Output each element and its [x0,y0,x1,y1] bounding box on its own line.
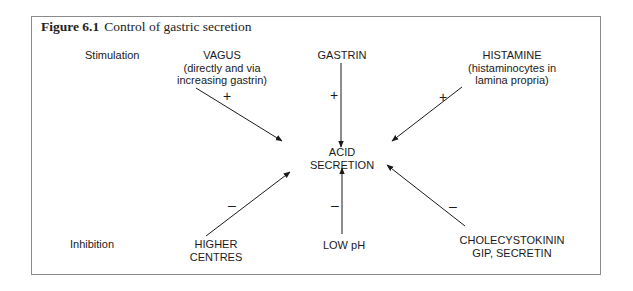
vagus-arrow [196,88,282,141]
higher-centres-arrow [206,172,290,236]
gastrin-plus-sign: + [330,88,338,102]
low-ph-minus-sign: – [331,198,339,212]
vagus-plus-sign: + [223,89,231,103]
histamine-arrow [392,87,462,141]
histamine-plus-sign: + [439,90,447,104]
cck-arrow [387,165,465,226]
arrows-layer [0,0,633,291]
cck-minus-sign: – [449,199,457,213]
higher-centres-minus-sign: – [228,198,236,212]
